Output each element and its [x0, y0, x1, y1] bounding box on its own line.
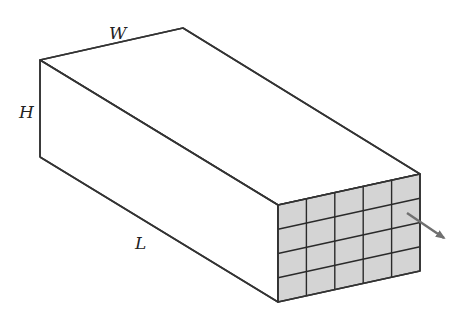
box-diagram: W H L	[0, 0, 464, 318]
width-label: W	[109, 23, 128, 43]
height-label: H	[18, 102, 35, 122]
length-label: L	[134, 233, 146, 253]
